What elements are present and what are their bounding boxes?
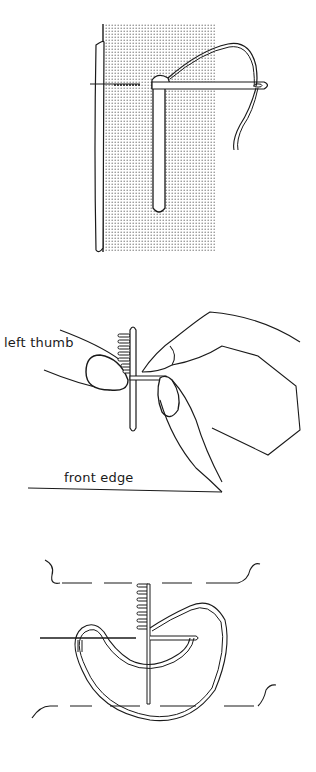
needle-fabric-illustration (0, 0, 316, 262)
figure-hands-holding-strip: left thumb front edge (0, 300, 316, 520)
hands-illustration (0, 300, 316, 520)
label-left-thumb: left thumb (4, 335, 74, 350)
figure-thread-loop (0, 540, 316, 772)
label-front-edge: front edge (64, 470, 134, 485)
figure-needle-through-fabric (0, 0, 316, 262)
thread-loop-illustration (0, 540, 316, 772)
